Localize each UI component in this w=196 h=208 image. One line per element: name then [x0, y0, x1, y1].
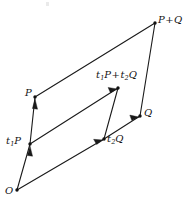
vertex-dot-P	[33, 95, 36, 98]
label-t2-index: 2	[111, 138, 115, 146]
vertex-dot-inner-sum	[116, 86, 119, 89]
vertex-dot-P-plus-Q	[153, 21, 156, 24]
vertex-dot-Q	[138, 114, 141, 117]
label-origin: O	[5, 186, 13, 196]
label-p-plus-q-operator: +	[165, 14, 174, 25]
label-p-plus-q-lead: P	[158, 14, 165, 25]
label-inner-t2-letter: t	[120, 69, 124, 80]
label-t2-vector: Q	[115, 133, 123, 144]
label-t1-index: 1	[10, 140, 14, 148]
label-p: P	[25, 88, 32, 98]
label-p-plus-q: P+Q	[158, 15, 182, 25]
label-t1p-plus-t2q: t1P+t2Q	[96, 70, 137, 80]
arrowhead-toward-P	[32, 99, 37, 109]
vertex-dot-O	[15, 188, 18, 191]
label-inner-t2-vector: Q	[129, 69, 137, 80]
label-t1-vector: P	[14, 135, 21, 146]
vertex-dot-t1P	[28, 142, 31, 145]
vertex-dot-t2Q	[102, 137, 105, 140]
label-p-plus-q-tail: Q	[174, 14, 182, 25]
edge-P-to-P-plus-Q	[35, 23, 155, 97]
label-inner-t2-index: 2	[125, 74, 129, 82]
label-inner-t1-index: 1	[100, 74, 104, 82]
edge-Q-to-P-plus-Q	[140, 23, 155, 116]
label-q: Q	[144, 108, 152, 118]
vector-diagram-canvas	[0, 0, 196, 208]
label-t2q: t2Q	[107, 134, 124, 144]
vector-addition-figure: P+Q t1P+t2Q P Q t1P t2Q O	[0, 0, 196, 208]
label-t1p: t1P	[6, 136, 21, 146]
